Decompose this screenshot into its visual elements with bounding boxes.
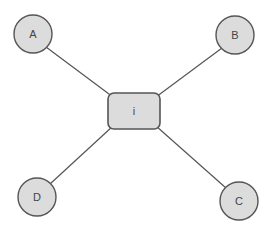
- star-diagram: i A B C D: [0, 0, 274, 236]
- edge-i-d: [50, 126, 113, 184]
- edge-i-a: [46, 47, 113, 97]
- edge-i-b: [156, 48, 222, 97]
- node-c-label: C: [235, 195, 243, 207]
- node-a-label: A: [29, 28, 37, 40]
- center-node-label: i: [133, 105, 135, 117]
- node-d[interactable]: D: [18, 178, 56, 216]
- center-node[interactable]: i: [108, 93, 160, 129]
- node-c[interactable]: C: [220, 182, 258, 220]
- node-d-label: D: [33, 191, 41, 203]
- node-b-label: B: [231, 29, 238, 41]
- node-b[interactable]: B: [216, 16, 254, 54]
- edge-i-c: [156, 126, 226, 188]
- node-a[interactable]: A: [14, 15, 52, 53]
